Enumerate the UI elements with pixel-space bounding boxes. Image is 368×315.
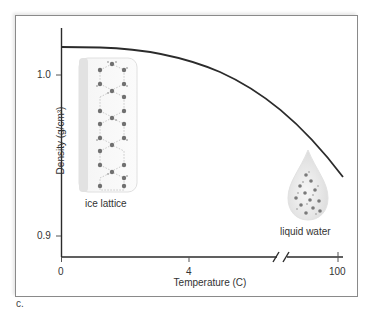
y-axis-label: Density (g/cm³) [55, 91, 66, 191]
x-tick-label-100: 100 [329, 266, 346, 277]
y-tick-label-1.0: 1.0 [37, 69, 51, 80]
y-tick-label-0.9: 0.9 [37, 230, 51, 241]
panel-label: c. [16, 298, 24, 309]
liquid-water-label: liquid water [280, 226, 331, 237]
x-tick-label-0: 0 [58, 266, 64, 277]
ice-lattice-illustration [79, 58, 137, 192]
ice-lattice-label: ice lattice [85, 198, 127, 209]
x-axis-label: Temperature (C) [140, 277, 280, 288]
liquid-water-drop-illustration [288, 150, 328, 220]
x-tick-label-4: 4 [186, 266, 192, 277]
